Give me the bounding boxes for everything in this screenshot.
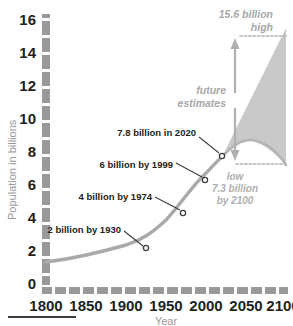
y-tick-6: 6 [28,176,36,193]
population-growth-chart: 16 14 12 10 8 6 4 2 0 Population in bill… [0,0,293,326]
y-tick-2: 2 [28,242,36,259]
x-axis [42,287,288,294]
footer-divider [8,316,76,318]
population-curve [46,157,222,262]
data-point-1974 [180,210,185,215]
annotation-2-billion-1930: 2 billion by 1930 [48,224,121,235]
y-tick-12: 12 [19,77,36,94]
leader-line-78b [199,137,219,153]
y-tick-16: 16 [19,11,36,28]
y-tick-0: 0 [28,275,36,292]
high-estimate-label-line1: 15.6 billion [219,8,273,20]
chart-canvas: 16 14 12 10 8 6 4 2 0 Population in bill… [0,0,293,326]
low-estimate-label-line2: 7.3 billion [212,183,258,194]
low-estimate-label-line1: low [227,171,245,182]
future-estimates-label-line1: future [196,84,226,96]
y-axis [42,14,50,285]
leader-line-6b [176,163,202,177]
x-tick-1950: 1950 [149,297,182,314]
x-tick-2000: 2000 [189,297,222,314]
x-tick-1900: 1900 [109,297,142,314]
x-tick-1850: 1850 [69,297,102,314]
x-tick-2050: 2050 [229,297,262,314]
x-axis-title: Year [155,315,178,326]
high-estimate-arrow-icon [231,38,240,93]
annotation-6-billion-1999: 6 billion by 1999 [100,159,173,170]
y-tick-14: 14 [19,44,36,61]
future-estimates-label-line2: estimates [178,97,227,109]
low-estimate-label-line3: by 2100 [217,195,254,206]
annotation-4-billion-1974: 4 billion by 1974 [79,191,153,202]
x-tick-1800: 1800 [29,297,62,314]
leader-line-4b [155,197,180,210]
data-point-1999 [202,177,207,182]
y-tick-8: 8 [28,143,36,160]
x-tick-2100: 2100 [266,297,293,314]
annotation-78-billion-2020: 7.8 billion in 2020 [117,127,196,138]
data-point-2020 [219,153,224,158]
y-axis-title: Population in billions [6,119,18,220]
y-tick-10: 10 [19,110,36,127]
data-point-1930 [143,245,148,250]
high-estimate-label-line2: high [251,21,273,33]
y-tick-4: 4 [28,209,37,226]
